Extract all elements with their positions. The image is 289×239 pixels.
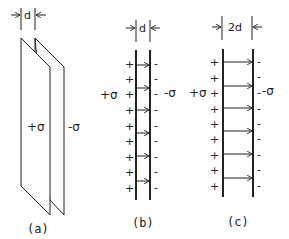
svg-text:+: + <box>125 182 134 195</box>
svg-text:+: + <box>125 151 134 164</box>
negative-charge-label-b: -σ <box>164 86 176 100</box>
gap-label-b: d <box>139 22 146 35</box>
svg-text:+: + <box>125 166 134 179</box>
negative-charge-label-a: -σ <box>68 120 80 134</box>
svg-text:+: + <box>210 164 219 177</box>
svg-text:-: - <box>154 119 158 132</box>
svg-text:+: + <box>210 149 219 162</box>
gap-label-c: 2d <box>228 21 242 34</box>
plus-charges-c: + + + + + + + + + <box>210 56 219 193</box>
svg-text:-: - <box>257 132 261 145</box>
field-arrows-b <box>137 65 149 181</box>
minus-charges-b: - - - - - - - - - <box>154 57 158 194</box>
svg-text:+: + <box>125 135 134 148</box>
svg-text:-: - <box>154 103 158 116</box>
svg-text:+: + <box>125 73 134 86</box>
caption-a: (a) <box>27 222 49 236</box>
svg-text:+: + <box>210 56 219 69</box>
plus-charges-b: + + + + + + + + + <box>125 58 134 195</box>
panel-a: d +σ -σ (a) <box>11 8 80 236</box>
svg-text:-: - <box>257 163 261 176</box>
svg-text:-: - <box>154 57 158 70</box>
svg-text:+: + <box>210 103 219 116</box>
svg-text:+: + <box>125 120 134 133</box>
minus-charges-c: - - - - - - - - - <box>257 55 261 192</box>
svg-text:-: - <box>257 86 261 99</box>
svg-text:+: + <box>210 118 219 131</box>
svg-text:+: + <box>125 88 134 101</box>
field-arrows-c <box>224 62 252 178</box>
panel-b: d + + + + + + + + + - - - - - <box>100 20 176 230</box>
svg-text:+: + <box>210 87 219 100</box>
svg-text:+: + <box>125 58 134 71</box>
svg-text:+: + <box>210 72 219 85</box>
svg-text:-: - <box>257 179 261 192</box>
positive-charge-label-c: +σ <box>189 86 207 100</box>
svg-text:-: - <box>154 87 158 100</box>
positive-charge-label-a: +σ <box>27 120 45 134</box>
negative-charge-label-c: -σ <box>262 84 274 98</box>
svg-text:-: - <box>257 55 261 68</box>
svg-text:-: - <box>257 148 261 161</box>
svg-text:+: + <box>125 104 134 117</box>
svg-text:-: - <box>154 181 158 194</box>
svg-text:-: - <box>154 72 158 85</box>
positive-charge-label-b: +σ <box>100 88 118 102</box>
capacitor-diagram: d +σ -σ (a) d + + <box>0 0 289 239</box>
svg-text:-: - <box>257 70 261 83</box>
caption-b: (b) <box>132 216 154 230</box>
panel-c: 2d + + + + + + + + + - - - - - <box>189 16 274 229</box>
svg-text:-: - <box>154 134 158 147</box>
svg-text:-: - <box>154 165 158 178</box>
svg-text:-: - <box>257 117 261 130</box>
caption-c: (c) <box>227 215 249 229</box>
svg-text:-: - <box>257 102 261 115</box>
svg-text:+: + <box>210 180 219 193</box>
svg-text:-: - <box>154 150 158 163</box>
svg-text:+: + <box>210 133 219 146</box>
gap-label-a: d <box>24 9 31 22</box>
